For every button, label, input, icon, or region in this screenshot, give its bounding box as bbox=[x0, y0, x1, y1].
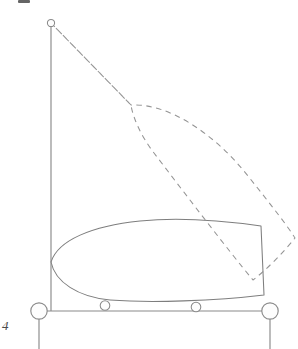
keel-node-b[interactable] bbox=[191, 302, 201, 312]
left-hub-node[interactable] bbox=[31, 303, 47, 319]
node-group bbox=[31, 19, 278, 319]
rig-lines-group bbox=[39, 23, 271, 349]
page-number-label: 4 bbox=[2, 318, 9, 334]
masthead-node[interactable] bbox=[47, 19, 54, 26]
right-hub-node[interactable] bbox=[262, 303, 278, 319]
sail-outline-dashed bbox=[51, 23, 295, 280]
sail-plan-diagram bbox=[0, 0, 298, 349]
hull-outline bbox=[51, 219, 264, 301]
hull-group bbox=[51, 219, 264, 301]
sail-group bbox=[51, 23, 295, 280]
keel-node-a[interactable] bbox=[100, 301, 110, 311]
figure-root: 4 bbox=[0, 0, 298, 349]
